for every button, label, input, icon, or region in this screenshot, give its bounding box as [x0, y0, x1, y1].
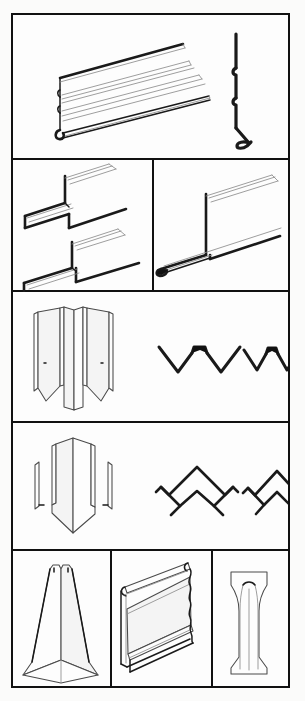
j-channel-upper	[25, 164, 126, 228]
cell-row2-left	[13, 158, 152, 292]
section-inside-corner-narrow	[244, 347, 288, 370]
fig-2-j-channel-trim-pair	[13, 158, 152, 292]
cell-row3-right	[152, 290, 288, 421]
fig-6-outside-corner-post	[13, 421, 152, 549]
fig-1-horizontal-siding-panel	[13, 15, 288, 158]
fig-7-outside-corner-post-sections	[152, 421, 288, 549]
cell-row1	[13, 15, 288, 158]
fig-3-starter-strip-trim	[154, 158, 288, 292]
cell-row5-right	[213, 549, 288, 686]
fig-1-section-profile	[233, 34, 251, 148]
fig-4-inside-corner-post	[13, 290, 152, 421]
cell-row4-left	[13, 421, 152, 549]
fig-10-hourglass-trim-piece	[213, 549, 288, 686]
cell-row5-center	[112, 549, 211, 686]
fig-9-siding-panel-short-section	[112, 549, 211, 686]
cell-row3-left	[13, 290, 152, 421]
outer-frame	[11, 13, 290, 688]
section-inside-corner-wide	[159, 346, 240, 372]
section-outside-corner-wide	[156, 467, 238, 515]
cell-row4-right	[152, 421, 288, 549]
fig-8-corner-cap-tapered	[13, 549, 110, 686]
drawing-sheet	[0, 0, 305, 701]
fig-5-inside-corner-post-sections	[152, 290, 288, 421]
section-outside-corner-narrow	[243, 471, 288, 514]
cell-row5-left	[13, 549, 110, 686]
cell-row2-right	[154, 158, 288, 292]
j-channel-lower	[24, 229, 139, 292]
